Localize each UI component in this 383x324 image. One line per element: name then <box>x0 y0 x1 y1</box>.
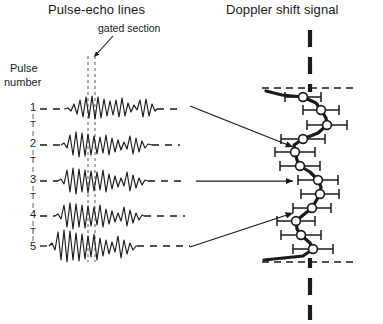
gate-lines <box>88 56 95 262</box>
pulse-echo-trace-2 <box>40 132 180 157</box>
gated-section-pointer-icon <box>94 36 113 57</box>
data-point-marker <box>317 106 326 115</box>
data-point-marker <box>292 217 301 226</box>
data-point-marker <box>299 135 308 144</box>
doppler-reference-lines <box>262 88 358 262</box>
figure-canvas <box>0 0 383 324</box>
pulse-echo-trace-4 <box>40 203 185 229</box>
data-point-marker <box>314 176 323 185</box>
pulse-echo-trace-5 <box>40 230 190 262</box>
pulse-echo-trace-1 <box>40 96 180 119</box>
data-point-marker <box>308 204 317 213</box>
data-point-marker <box>323 121 332 130</box>
data-point-marker <box>309 245 318 254</box>
data-point-marker <box>291 148 300 157</box>
figure-root: Pulse-echo lines Doppler shift signal ga… <box>0 0 383 324</box>
arrow-top-connector <box>190 106 293 147</box>
data-point-marker <box>299 93 308 102</box>
data-point-marker <box>297 231 306 240</box>
data-point-marker <box>296 162 305 171</box>
pulse-echo-trace-3 <box>40 168 185 194</box>
data-point-marker <box>316 190 325 199</box>
